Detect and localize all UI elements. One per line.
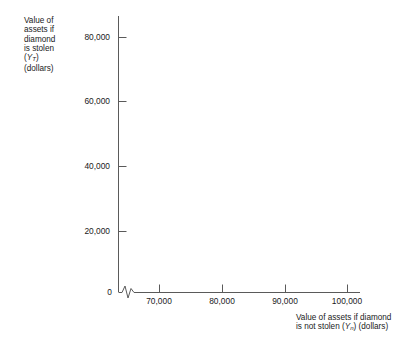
x-axis-title-line-2-pre: is not stolen ( bbox=[296, 322, 345, 331]
y-axis-title: Value of assets if diamond is stolen (YT… bbox=[24, 16, 86, 73]
x-axis-title-line-2: is not stolen (Yn) (dollars) bbox=[296, 322, 416, 332]
x-tick-label-100000: 100,000 bbox=[322, 297, 372, 306]
y-axis-title-line-1: Value of bbox=[24, 16, 86, 25]
y-tick-label-80000: 80,000 bbox=[58, 33, 110, 42]
y-axis-title-line-6: (dollars) bbox=[24, 64, 86, 73]
y-axis-title-line-5: (YT) bbox=[24, 53, 86, 63]
x-tick-label-80000: 80,000 bbox=[197, 297, 247, 306]
x-tick-label-70000: 70,000 bbox=[134, 297, 184, 306]
x-axis-ticks bbox=[160, 285, 348, 293]
x-axis-title-line-1: Value of assets if diamond bbox=[296, 313, 416, 322]
y-tick-label-40000: 40,000 bbox=[58, 162, 110, 171]
y-axis-title-line-4: is stolen bbox=[24, 44, 86, 53]
x-axis-title: Value of assets if diamond is not stolen… bbox=[296, 313, 416, 333]
origin-label: 0 bbox=[100, 288, 112, 297]
y-axis-ticks bbox=[119, 38, 127, 232]
y-tick-label-60000: 60,000 bbox=[58, 97, 110, 106]
y-variable-subscript: T bbox=[32, 55, 36, 62]
chart-figure: Value of assets if diamond is stolen (YT… bbox=[0, 0, 419, 345]
x-axis-break-icon bbox=[122, 286, 134, 298]
x-axis-title-line-2-post: ) (dollars) bbox=[354, 322, 389, 331]
y-tick-label-20000: 20,000 bbox=[58, 227, 110, 236]
x-tick-label-90000: 90,000 bbox=[260, 297, 310, 306]
